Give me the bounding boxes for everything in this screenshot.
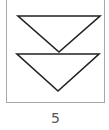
option-tile[interactable]: [6, 0, 105, 103]
double-triangle-down-icon: [7, 0, 106, 104]
tile-label: 5: [6, 109, 105, 127]
